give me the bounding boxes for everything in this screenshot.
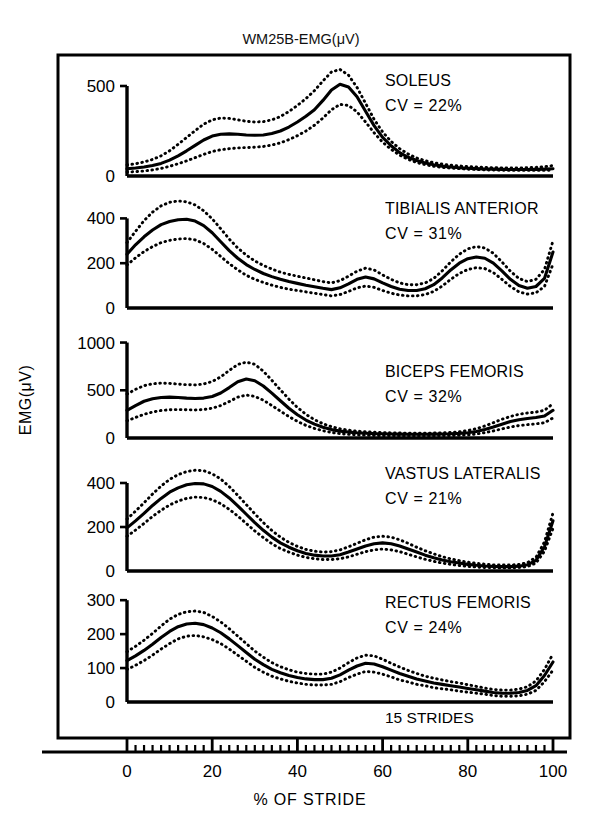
y-tick-label: 0 <box>106 693 115 712</box>
y-tick-label: 0 <box>106 167 115 186</box>
strides-note: 15 STRIDES <box>385 709 474 726</box>
y-tick-label: 500 <box>87 381 115 400</box>
y-tick-label: 100 <box>87 659 115 678</box>
band-curve-minus1SD <box>127 497 553 568</box>
mean-curve <box>127 219 553 290</box>
x-axis-label: % OF STRIDE <box>254 791 367 808</box>
panel-soleus: 0500SOLEUSCV = 22% <box>87 69 553 186</box>
y-tick-label: 300 <box>87 591 115 610</box>
panel-muscle-name: BICEPS FEMORIS <box>385 363 524 380</box>
panel-rectus-femoris: 0100200300RECTUS FEMORISCV = 24% <box>87 591 553 712</box>
y-tick-label: 1000 <box>77 334 115 353</box>
figure-frame <box>58 55 570 738</box>
y-tick-label: 0 <box>106 429 115 448</box>
y-tick-label: 200 <box>87 625 115 644</box>
panel-cv-label: CV = 31% <box>385 225 462 242</box>
panel-muscle-name: TIBIALIS ANTERIOR <box>385 200 539 217</box>
panel-cv-label: CV = 22% <box>385 97 462 114</box>
mean-curve <box>127 84 553 169</box>
panel-cv-label: CV = 24% <box>385 619 462 636</box>
y-tick-label: 500 <box>87 77 115 96</box>
emg-figure: WM25B-EMG(μV)EMG(μV)% OF STRIDE0500SOLEU… <box>0 0 603 828</box>
panel-biceps-femoris: 05001000BICEPS FEMORISCV = 32% <box>77 334 553 448</box>
y-tick-label: 400 <box>87 209 115 228</box>
y-tick-label: 200 <box>87 254 115 273</box>
y-axis-label: EMG(μV) <box>17 365 34 436</box>
panel-muscle-name: VASTUS LATERALIS <box>385 465 541 482</box>
band-curve-minus1SD <box>127 635 553 696</box>
x-tick-label: 80 <box>458 762 477 781</box>
mean-curve <box>127 379 553 434</box>
y-tick-label: 0 <box>106 299 115 318</box>
y-tick-label: 400 <box>87 474 115 493</box>
mean-curve <box>127 483 553 566</box>
panel-tibialis-anterior: 0200400TIBIALIS ANTERIORCV = 31% <box>87 200 553 318</box>
y-tick-label: 0 <box>106 562 115 581</box>
band-curve-minus1SD <box>127 104 553 172</box>
x-tick-label: 100 <box>539 762 567 781</box>
figure-title: WM25B-EMG(μV) <box>242 31 359 47</box>
panel-vastus-lateralis: 0200400VASTUS LATERALISCV = 21% <box>87 465 553 581</box>
panel-cv-label: CV = 32% <box>385 388 462 405</box>
panel-muscle-name: SOLEUS <box>385 72 451 89</box>
x-tick-label: 0 <box>122 762 131 781</box>
panel-cv-label: CV = 21% <box>385 490 462 507</box>
x-tick-label: 20 <box>203 762 222 781</box>
x-tick-label: 60 <box>373 762 392 781</box>
panel-muscle-name: RECTUS FEMORIS <box>385 594 531 611</box>
y-tick-label: 200 <box>87 518 115 537</box>
x-tick-label: 40 <box>288 762 307 781</box>
